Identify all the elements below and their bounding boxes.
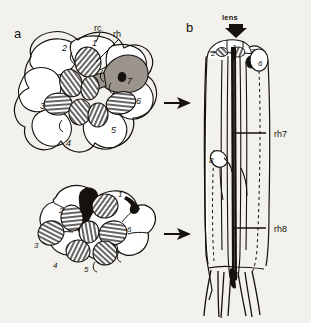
rhabdomere-7-dark bbox=[118, 72, 127, 82]
annotation-rh: rh bbox=[113, 29, 121, 39]
cell-number-4-top: 4 bbox=[66, 138, 71, 148]
cell-number-2-bottom: 2 bbox=[58, 206, 64, 215]
cell-number-1-panel-b: 1 bbox=[232, 43, 236, 52]
cell-number-5-bottom: 5 bbox=[84, 265, 89, 274]
ommatidium-figure: a bbox=[0, 0, 311, 323]
cell-number-8-panel-b: 8 bbox=[209, 156, 214, 165]
cell-number-6-top: 6 bbox=[136, 96, 141, 106]
top-rhabdomere-left bbox=[216, 48, 228, 57]
annotation-rc: rc bbox=[94, 23, 102, 33]
rh8-label: rh8 bbox=[274, 224, 287, 234]
cell-number-4-bottom: 4 bbox=[53, 261, 58, 270]
cell-number-6-bottom: 6 bbox=[127, 225, 132, 234]
cell-number-3-bottom: 3 bbox=[34, 241, 39, 250]
cell-number-1-bottom: 1 bbox=[118, 190, 122, 199]
cell-number-6-panel-b: 6 bbox=[258, 59, 263, 68]
cell-number-2-top: 2 bbox=[61, 43, 67, 53]
cell-number-7-panel-b: 7 bbox=[250, 47, 255, 56]
rhabdomere-ellipse-b7 bbox=[93, 241, 118, 266]
rhabdomere-ellipse-5 bbox=[88, 103, 109, 128]
cell-number-2-panel-b: 2 bbox=[210, 49, 216, 58]
rh7-label: rh7 bbox=[274, 129, 287, 139]
cell-number-3-top: 3 bbox=[40, 101, 45, 111]
cell-number-1-top: 1 bbox=[92, 38, 97, 48]
lens-label: lens bbox=[222, 13, 238, 22]
panel-b-letter: b bbox=[186, 20, 193, 35]
panel-a-letter: a bbox=[14, 26, 22, 41]
